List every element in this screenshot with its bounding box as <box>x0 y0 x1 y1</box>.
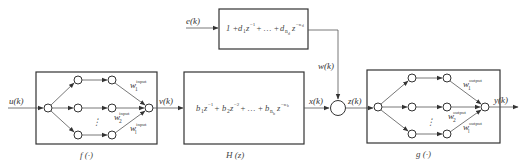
f-block-caption: f (·) <box>80 150 93 160</box>
svg-text:z(k): z(k) <box>347 96 362 106</box>
svg-text:+ … +: + … + <box>256 23 279 33</box>
svg-text:b: b <box>196 103 200 113</box>
input-signal-u: u(k) <box>8 96 43 108</box>
g-hidden-node <box>443 103 451 111</box>
g-input-node <box>374 103 382 111</box>
svg-text:2: 2 <box>119 118 122 124</box>
g-hidden-node <box>408 103 416 111</box>
svg-text:d: d <box>302 24 304 28</box>
g-hidden-node <box>408 130 416 138</box>
summing-junction <box>331 101 346 116</box>
svg-text:b: b <box>265 103 269 113</box>
svg-text:−1: −1 <box>208 102 214 107</box>
g-hidden-node <box>443 130 451 138</box>
ellipsis: ⋮ <box>92 117 101 127</box>
svg-text:1: 1 <box>468 85 471 91</box>
output-signal-y: y(k) <box>489 95 518 107</box>
svg-text:l: l <box>468 128 470 134</box>
noise-input-label: e(k) <box>186 16 200 26</box>
svg-text:1: 1 <box>135 86 138 92</box>
noise-filter-block: e(k) 1 + d 1 z −1 + … + d n d z −n d w(k… <box>186 9 338 99</box>
block-diagram: u(k) ⋮ w 1 input w <box>0 0 530 166</box>
svg-text:d: d <box>288 31 290 36</box>
f-input-node <box>44 104 52 112</box>
svg-text:input: input <box>136 79 147 84</box>
signal-x: x(k) <box>304 96 329 108</box>
svg-text:−1: −1 <box>250 22 256 27</box>
noise-transfer-equation: 1 + d 1 z −1 + … + d n d z −n d <box>226 22 304 36</box>
f-hidden-node <box>74 131 82 139</box>
f-nonlinearity-block: ⋮ w 1 input w 2 input w l input f (·) <box>36 72 157 160</box>
g-hidden-node <box>443 74 451 82</box>
ellipsis: ⋮ <box>426 117 435 127</box>
h-block-caption: H (z) <box>225 150 244 160</box>
f-hidden-node <box>74 76 82 84</box>
svg-text:+ … +: + … + <box>240 103 263 113</box>
h-linear-block: b 1 z −1 + b 2 z −2 + … + b n b z −n b H… <box>184 72 304 160</box>
svg-text:y(k): y(k) <box>493 95 508 105</box>
svg-text:+: + <box>214 103 220 113</box>
svg-text:x(k): x(k) <box>308 96 323 106</box>
signal-z: z(k) <box>346 96 373 108</box>
svg-text:v(k): v(k) <box>159 96 173 106</box>
svg-text:b: b <box>287 104 289 108</box>
f-hidden-node <box>74 104 82 112</box>
svg-text:1 +: 1 + <box>226 23 238 33</box>
g-nonlinearity-block: ⋮ w 1 output w 2 output w l output g (·) <box>367 70 500 159</box>
g-block-caption: g (·) <box>416 149 431 159</box>
h-transfer-equation: b 1 z −1 + b 2 z −2 + … + b n b z −n b <box>196 102 289 116</box>
svg-text:input: input <box>136 122 147 127</box>
g-output-node <box>481 103 489 111</box>
svg-text:input: input <box>119 111 130 116</box>
f-output-node <box>145 104 153 112</box>
svg-text:−n: −n <box>281 102 287 107</box>
svg-text:output: output <box>469 78 482 83</box>
svg-text:b: b <box>222 103 226 113</box>
noise-output-label: w(k) <box>318 61 334 71</box>
f-hidden-node <box>108 131 116 139</box>
svg-text:2: 2 <box>453 117 456 123</box>
svg-text:u(k): u(k) <box>9 96 24 106</box>
f-hidden-node <box>108 76 116 84</box>
svg-text:b: b <box>273 111 275 116</box>
g-hidden-node <box>408 74 416 82</box>
svg-text:−n: −n <box>296 22 302 27</box>
svg-text:−2: −2 <box>234 102 240 107</box>
svg-text:output: output <box>469 121 482 126</box>
svg-text:output: output <box>453 110 466 115</box>
f-hidden-node <box>108 104 116 112</box>
svg-text:l: l <box>135 129 137 135</box>
